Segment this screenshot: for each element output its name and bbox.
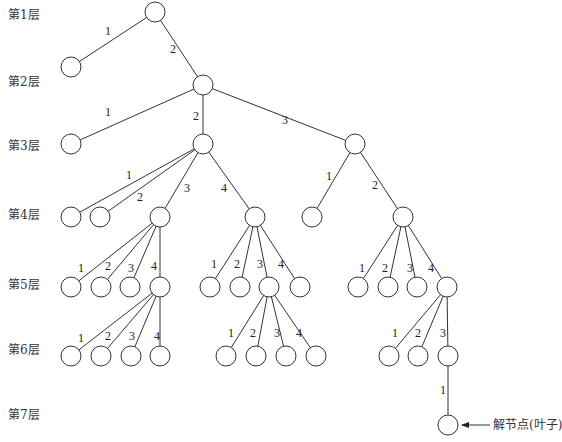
tree-node-n5c	[120, 277, 140, 297]
tree-node-n6a	[61, 346, 81, 366]
edge-label: 3	[257, 257, 263, 271]
tree-edge	[258, 296, 267, 346]
tree-node-n6f	[246, 346, 266, 366]
tree-node-n6j	[408, 346, 428, 366]
edge-label: 1	[359, 261, 365, 275]
edge-label: 1	[105, 105, 111, 119]
tree-edge	[212, 88, 346, 140]
edge-label: 2	[250, 326, 256, 340]
tree-edge	[79, 17, 147, 61]
edge-label: 1	[326, 169, 332, 183]
tree-nodes	[61, 2, 458, 435]
edge-label: 1	[211, 257, 217, 271]
tree-edge	[80, 89, 194, 140]
tree-node-n5h	[290, 277, 310, 297]
tree-node-n5g	[259, 277, 279, 297]
tree-node-n4a	[61, 207, 81, 227]
tree-node-n5f	[230, 277, 250, 297]
tree-node-n5i	[348, 277, 368, 297]
edge-label: 4	[428, 261, 434, 275]
tree-node-n6i	[379, 346, 399, 366]
edge-label: 1	[228, 326, 234, 340]
edge-label: 4	[296, 326, 302, 340]
edge-label: 1	[78, 331, 84, 345]
tree-node-n5a	[61, 277, 81, 297]
search-tree-diagram: 第1层第2层第3层第4层第5层第6层第7层 121231234121234123…	[0, 0, 562, 442]
tree-edge	[447, 296, 448, 346]
solution-node-label: 解节点(叶子)	[493, 418, 562, 432]
edge-label: 4	[151, 259, 157, 273]
level-label: 第2层	[8, 75, 40, 89]
tree-node-n1	[145, 2, 165, 22]
edge-label: 1	[440, 383, 446, 397]
edge-label: 4	[221, 181, 227, 195]
edge-label: 3	[129, 329, 135, 343]
tree-node-n2a	[61, 57, 81, 77]
solution-annotation: 解节点(叶子)	[462, 418, 562, 432]
edge-label: 2	[234, 257, 240, 271]
tree-node-n2b	[193, 75, 213, 95]
tree-edge	[160, 20, 197, 77]
tree-edge	[360, 152, 397, 209]
edge-label: 2	[372, 178, 378, 192]
edge-label: 3	[274, 326, 280, 340]
tree-node-n6e	[216, 346, 236, 366]
tree-node-n6d	[150, 346, 170, 366]
edge-label: 2	[382, 261, 388, 275]
tree-node-n6k	[438, 346, 458, 366]
tree-node-n4b	[90, 207, 110, 227]
tree-node-n6h	[306, 346, 326, 366]
tree-edge	[215, 225, 249, 279]
tree-node-n5b	[91, 277, 111, 297]
tree-node-n4c	[150, 207, 170, 227]
edge-label: 2	[137, 190, 143, 204]
tree-edge	[395, 294, 440, 348]
tree-node-n3a	[61, 134, 81, 154]
edge-label: 3	[282, 113, 288, 127]
edge-label: 3	[440, 326, 446, 340]
edge-label: 1	[105, 24, 111, 38]
level-label: 第3层	[8, 139, 40, 153]
edge-label: 3	[184, 181, 190, 195]
edge-label: 4	[278, 257, 284, 271]
edge-label: 2	[105, 329, 111, 343]
edge-label: 2	[105, 259, 111, 273]
level-label: 第1层	[8, 8, 40, 22]
tree-node-n6g	[276, 346, 296, 366]
edge-label: 2	[170, 42, 176, 56]
tree-node-n6b	[91, 346, 111, 366]
tree-node-n4d	[245, 207, 265, 227]
tree-edge	[363, 225, 397, 279]
tree-edge	[79, 223, 153, 281]
tree-edge	[165, 152, 198, 208]
edge-label: 3	[407, 261, 413, 275]
tree-edge	[108, 149, 195, 211]
edge-label: 4	[154, 329, 160, 343]
tree-node-n5d	[150, 277, 170, 297]
level-label: 第7层	[8, 408, 40, 422]
tree-node-n4e	[302, 207, 322, 227]
tree-node-n7a	[438, 415, 458, 435]
tree-node-n5k	[407, 277, 427, 297]
tree-node-n5j	[378, 277, 398, 297]
level-label: 第6层	[8, 343, 40, 357]
tree-node-n5l	[437, 277, 457, 297]
level-label: 第5层	[8, 278, 40, 292]
level-label: 第4层	[8, 208, 40, 222]
tree-edge	[209, 152, 250, 209]
edge-label: 2	[193, 109, 199, 123]
edge-label: 1	[78, 261, 84, 275]
edge-label: 1	[126, 168, 132, 182]
tree-node-n5e	[200, 277, 220, 297]
tree-edge	[79, 293, 153, 350]
tree-node-n4f	[393, 207, 413, 227]
edge-label: 1	[392, 326, 398, 340]
edge-label: 2	[415, 326, 421, 340]
tree-node-n3c	[345, 134, 365, 154]
tree-edge	[317, 152, 350, 208]
tree-node-n6c	[121, 346, 141, 366]
level-labels: 第1层第2层第3层第4层第5层第6层第7层	[8, 8, 40, 422]
tree-edge	[408, 225, 442, 278]
edge-label: 3	[128, 261, 134, 275]
tree-node-n3b	[193, 134, 213, 154]
